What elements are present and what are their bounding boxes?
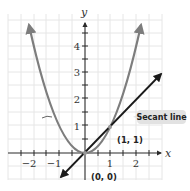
point-one-one [108, 125, 112, 129]
x-tick-label-minus1: −1 [47, 158, 62, 169]
x-axis-label: x [165, 147, 172, 160]
curve-label-mark [42, 116, 52, 118]
y-tick-label-3: 3 [74, 67, 80, 78]
y-axis-label: y [80, 6, 88, 19]
point-label-one-one: (1, 1) [117, 135, 143, 145]
callout-text: Secant line [136, 113, 187, 122]
point-origin [83, 151, 87, 155]
y-tick-label-1: 1 [74, 121, 80, 132]
x-tick-label-minus2: −2 [22, 158, 37, 169]
y-tick-labels: 1 2 3 4 [74, 41, 80, 132]
y-tick-label-4: 4 [74, 41, 80, 52]
graph-canvas: −2 −1 1 2 1 2 3 4 y x (1, 1) (0, 0) Seca… [0, 0, 190, 191]
y-tick-label-2: 2 [74, 94, 80, 105]
x-tick-labels: −2 −1 1 2 [22, 158, 140, 169]
x-tick-label-1: 1 [107, 158, 113, 169]
secant-line-graph: −2 −1 1 2 1 2 3 4 y x (1, 1) (0, 0) Seca… [0, 0, 190, 191]
secant-line-callout: Secant line [133, 110, 187, 124]
axes [8, 23, 161, 180]
x-tick-label-2: 2 [133, 158, 139, 169]
point-label-origin: (0, 0) [91, 172, 117, 182]
